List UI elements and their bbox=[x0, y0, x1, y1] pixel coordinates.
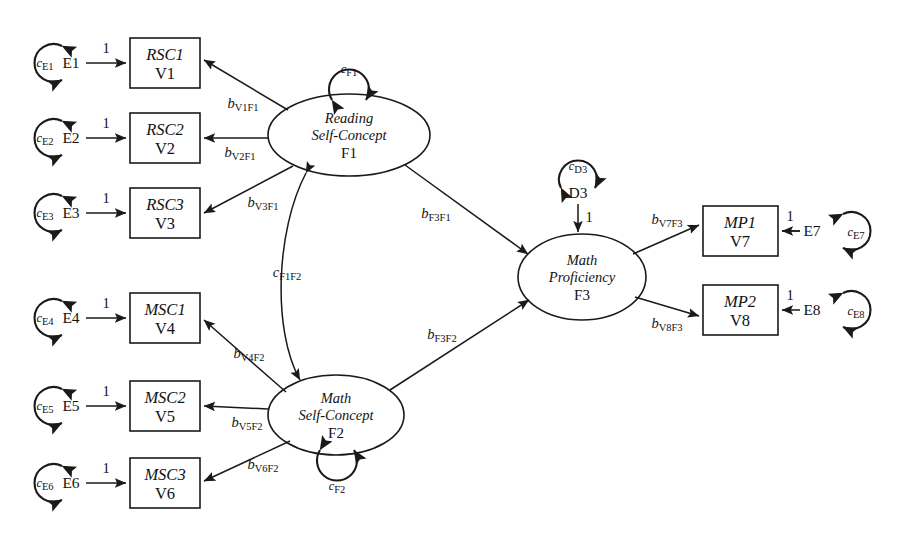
v5-name: MSC2 bbox=[143, 388, 185, 407]
observed-variable-v4: MSC1 V4 bbox=[130, 293, 200, 343]
f2-code: F2 bbox=[328, 425, 344, 441]
fixed-label-e5: 1 bbox=[102, 383, 109, 399]
loading-path-f1-v2: bV2F1 bbox=[204, 138, 268, 162]
ce5-label: cE5 bbox=[36, 399, 53, 415]
ce6-label: cE6 bbox=[36, 476, 53, 492]
fixed-label-e2: 1 bbox=[102, 115, 109, 131]
variance-loop-e7: cE7 bbox=[843, 212, 870, 250]
latent-factor-f3: Math Proficiency F3 bbox=[518, 234, 646, 320]
observed-variable-v7: MP1 V7 bbox=[703, 206, 778, 256]
variance-loop-e1: cE1 bbox=[35, 44, 62, 82]
variance-loop-e5: cE5 bbox=[35, 387, 62, 425]
f2-line2: Self-Concept bbox=[299, 407, 375, 423]
fixed-label-e1: 1 bbox=[102, 40, 109, 56]
v4-code: V4 bbox=[155, 319, 175, 338]
b-v2f1-label: bV2F1 bbox=[224, 144, 255, 162]
observed-variable-v1: RSC1 V1 bbox=[130, 38, 200, 88]
residual-e1-label: E1 bbox=[62, 54, 79, 71]
fixed-label-e8: 1 bbox=[786, 287, 793, 303]
residual-e3-label: E3 bbox=[62, 204, 79, 221]
v3-code: V3 bbox=[155, 214, 175, 233]
ce7-label: cE7 bbox=[847, 225, 864, 241]
latent-factor-f2: Math Self-Concept F2 bbox=[268, 375, 404, 455]
f1-code: F1 bbox=[341, 145, 357, 161]
b-v3f1-label: bV3F1 bbox=[247, 194, 278, 212]
ce3-label: cE3 bbox=[36, 206, 53, 222]
residual-e5-label: E5 bbox=[62, 397, 79, 414]
v6-code: V6 bbox=[155, 484, 175, 503]
observed-variable-v2: RSC2 V2 bbox=[130, 113, 200, 163]
v8-name: MP2 bbox=[723, 292, 756, 311]
residual-e6-label: E6 bbox=[62, 474, 79, 491]
fixed-path-e8-v8: 1 bbox=[782, 287, 800, 310]
v7-code: V7 bbox=[730, 232, 750, 251]
loading-path-f2-v4: bV4F2 bbox=[204, 320, 286, 392]
variance-loop-e3: cE3 bbox=[35, 194, 62, 232]
loading-path-f3-v8: bV8F3 bbox=[635, 297, 699, 333]
b-v1f1-label: bV1F1 bbox=[227, 95, 258, 113]
fixed-label-e4: 1 bbox=[102, 295, 109, 311]
f3-line1: Math bbox=[566, 252, 598, 268]
observed-variable-v8: MP2 V8 bbox=[703, 285, 778, 335]
fixed-path-e1-v1: 1 bbox=[86, 40, 126, 63]
ce8-label: cE8 bbox=[847, 304, 864, 320]
variance-loop-f2: cF2 bbox=[317, 450, 357, 495]
cf1-label: cF1 bbox=[341, 62, 358, 78]
v1-code: V1 bbox=[155, 64, 175, 83]
observed-variable-v3: RSC3 V3 bbox=[130, 188, 200, 238]
f3-line2: Proficiency bbox=[548, 269, 616, 285]
ce2-label: cE2 bbox=[36, 131, 53, 147]
latent-factor-f1: Reading Self-Concept F1 bbox=[268, 94, 430, 176]
ce4-label: cE4 bbox=[36, 311, 54, 327]
fixed-path-e3-v3: 1 bbox=[86, 190, 126, 213]
residual-e2-label: E2 bbox=[62, 129, 79, 146]
b-v5f2-label: bV5F2 bbox=[231, 414, 262, 432]
fixed-label-e3: 1 bbox=[102, 190, 109, 206]
loading-path-f2-v5: bV5F2 bbox=[204, 406, 268, 432]
variance-loop-e6: cE6 bbox=[35, 464, 62, 502]
b-v4f2-label: bV4F2 bbox=[233, 345, 264, 363]
variance-loop-e8: cE8 bbox=[843, 291, 870, 329]
v3-name: RSC3 bbox=[145, 195, 184, 214]
fixed-label-d3: 1 bbox=[585, 209, 592, 225]
variance-loop-e4: cE4 bbox=[35, 299, 62, 337]
v2-name: RSC2 bbox=[145, 120, 184, 139]
v2-code: V2 bbox=[155, 139, 175, 158]
loading-path-f1-v1: bV1F1 bbox=[204, 60, 288, 113]
residual-e8-label: E8 bbox=[803, 301, 820, 318]
v6-name: MSC3 bbox=[143, 465, 185, 484]
v8-code: V8 bbox=[730, 311, 750, 330]
b-v6f2-label: bV6F2 bbox=[247, 456, 278, 474]
fixed-path-e2-v2: 1 bbox=[86, 115, 126, 138]
residual-e7-label: E7 bbox=[803, 222, 820, 239]
f2-line1: Math bbox=[320, 390, 352, 406]
b-f3f1-label: bF3F1 bbox=[421, 205, 450, 223]
fixed-path-e7-v7: 1 bbox=[782, 208, 800, 231]
disturbance-d3-label: D3 bbox=[569, 184, 588, 201]
residual-e4-label: E4 bbox=[62, 309, 79, 326]
v7-name: MP1 bbox=[723, 213, 756, 232]
b-v7f3-label: bV7F3 bbox=[651, 211, 682, 229]
fixed-path-d3-f3: 1 bbox=[578, 204, 593, 232]
sem-diagram: RSC1 V1 RSC2 V2 RSC3 V3 MSC1 V4 MSC2 V5 … bbox=[0, 0, 902, 542]
f1-line1: Reading bbox=[324, 110, 373, 126]
loading-path-f2-v6: bV6F2 bbox=[204, 441, 290, 481]
observed-variable-v5: MSC2 V5 bbox=[130, 381, 200, 431]
b-v8f3-label: bV8F3 bbox=[651, 315, 682, 333]
fixed-path-e6-v6: 1 bbox=[86, 460, 126, 483]
v5-code: V5 bbox=[155, 407, 175, 426]
structural-path-f1-f3: bF3F1 bbox=[405, 165, 528, 254]
loading-path-f3-v7: bV7F3 bbox=[633, 211, 699, 254]
ce1-label: cE1 bbox=[36, 56, 53, 72]
cf1f2-label: cF1F2 bbox=[273, 264, 302, 282]
v4-name: MSC1 bbox=[143, 300, 185, 319]
sem-canvas: RSC1 V1 RSC2 V2 RSC3 V3 MSC1 V4 MSC2 V5 … bbox=[0, 0, 902, 542]
observed-variable-v6: MSC3 V6 bbox=[130, 458, 200, 508]
b-f3f2-label: bF3F2 bbox=[427, 326, 456, 344]
fixed-label-e7: 1 bbox=[786, 208, 793, 224]
fixed-path-e5-v5: 1 bbox=[86, 383, 126, 406]
structural-path-f2-f3: bF3F2 bbox=[390, 300, 529, 390]
f1-line2: Self-Concept bbox=[312, 127, 388, 143]
variance-loop-e2: cE2 bbox=[35, 119, 62, 157]
v1-name: RSC1 bbox=[145, 45, 184, 64]
